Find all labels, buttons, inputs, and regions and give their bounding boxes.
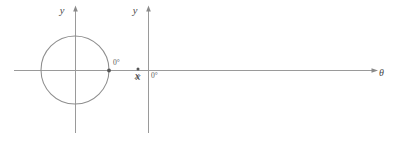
theta-axis-panel: y x 0° θ <box>120 5 384 133</box>
theta-axis-arrow-icon <box>372 68 379 73</box>
left-y-axis-label: y <box>59 5 65 16</box>
figure-container: y x 0° y x 0° θ <box>0 0 396 145</box>
left-y-axis-arrow-icon <box>73 6 78 12</box>
right-y-axis-arrow-icon <box>146 6 151 12</box>
right-panel-x-label: x <box>135 71 141 82</box>
unit-circle-panel: y x 0° <box>14 5 140 133</box>
theta-axis-label: θ <box>379 67 384 78</box>
diagram-canvas: y x 0° y x 0° θ <box>0 0 396 145</box>
left-zero-degree-label: 0° <box>113 58 120 67</box>
zero-degree-point-marker <box>107 69 111 73</box>
right-y-axis-label: y <box>132 5 138 16</box>
right-zero-degree-label: 0° <box>151 71 158 80</box>
